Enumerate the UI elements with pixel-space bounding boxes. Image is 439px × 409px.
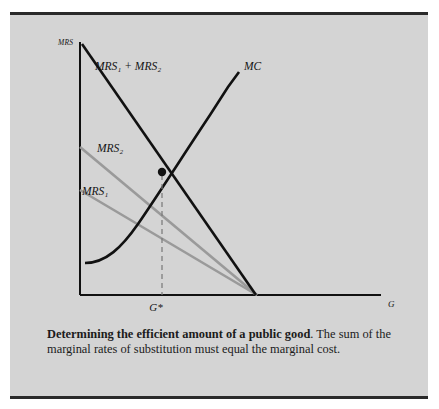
caption-bold-lead: Determining the efficient amount of a pu… <box>47 327 310 341</box>
curve-label-mc: MC <box>243 60 262 72</box>
curve-label-mrs-sum: MRS₁ + MRS₂ <box>94 60 161 72</box>
gstar-tick-label: G* <box>149 301 163 313</box>
x-axis-label: G <box>388 299 395 309</box>
figure-caption: Determining the efficient amount of a pu… <box>47 327 392 357</box>
gstar-letter: G* <box>149 301 163 313</box>
curve-mrs1 <box>80 190 257 295</box>
y-axis-label: MRS <box>57 38 73 47</box>
figure-area: MRS G G* MRS₁ + MRS₂ MRS₂ MRS₁ MC <box>10 15 428 320</box>
curve-label-mrs2: MRS₂ <box>96 142 123 154</box>
curve-mc <box>85 72 239 263</box>
public-good-efficiency-chart: MRS G G* MRS₁ + MRS₂ MRS₂ MRS₁ MC <box>10 15 428 320</box>
bottom-rule <box>10 396 428 399</box>
figure-page: MRS G G* MRS₁ + MRS₂ MRS₂ MRS₁ MC Determ… <box>0 0 439 409</box>
curve-label-mrs1: MRS₁ <box>81 185 108 197</box>
equilibrium-point <box>158 168 166 176</box>
